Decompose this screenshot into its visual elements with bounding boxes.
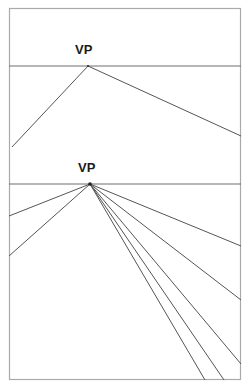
vp-label-upper: VP bbox=[75, 43, 93, 56]
lower-vanishing-point bbox=[88, 182, 92, 186]
outer-border bbox=[10, 9, 241, 380]
perspective-drawing bbox=[0, 0, 251, 392]
upper-vanishing-point bbox=[87, 65, 89, 67]
vp-label-lower: VP bbox=[78, 161, 96, 174]
perspective-diagram: VP VP bbox=[0, 0, 251, 392]
